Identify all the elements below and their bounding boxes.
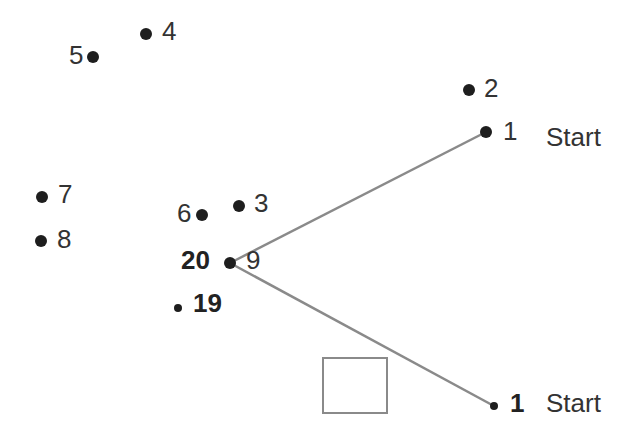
dot-p2-icon xyxy=(463,84,475,96)
dot-p1-icon xyxy=(480,126,492,138)
point-label-p1: 1 xyxy=(503,118,517,144)
point-label-p8: 8 xyxy=(57,226,71,252)
start-label-top: Start xyxy=(546,124,601,150)
point-label-p7: 7 xyxy=(58,181,72,207)
point-label-p19: 19 xyxy=(193,290,222,316)
point-label-p5: 5 xyxy=(69,42,83,68)
dot-p8-icon xyxy=(35,235,47,247)
dot-p3-icon xyxy=(233,200,245,212)
connect-the-dots-canvas: 12345678920191 Start Start xyxy=(0,0,640,437)
point-label-p6: 6 xyxy=(177,200,191,226)
empty-square-box xyxy=(322,357,388,414)
point-label-p3: 3 xyxy=(254,190,268,216)
point-label-p1b: 1 xyxy=(510,390,524,416)
point-label-p4: 4 xyxy=(162,18,176,44)
dot-p6-icon xyxy=(196,209,208,221)
dot-p19-icon xyxy=(174,304,182,312)
connector-lines xyxy=(0,0,640,437)
dot-p9-icon xyxy=(224,257,236,269)
point-label-p20: 20 xyxy=(181,247,210,273)
dot-p7-icon xyxy=(36,191,48,203)
dot-p1b-icon xyxy=(490,402,498,410)
dot-p4-icon xyxy=(140,28,152,40)
point-label-p9: 9 xyxy=(246,247,260,273)
start-label-bottom: Start xyxy=(546,390,601,416)
dot-p5-icon xyxy=(87,51,99,63)
point-label-p2: 2 xyxy=(484,75,498,101)
